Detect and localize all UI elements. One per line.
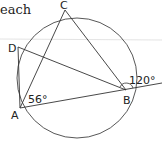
partial-text: each xyxy=(0,2,32,17)
label-B: B xyxy=(123,94,131,107)
segment-DA xyxy=(18,47,20,108)
diagram-canvas: each C D A B 56° 120° xyxy=(0,0,162,141)
label-A: A xyxy=(11,109,19,122)
angle-A-label: 56° xyxy=(28,93,48,106)
circle xyxy=(17,18,137,138)
faint-guide-line xyxy=(0,39,162,40)
geometry-diagram: each C D A B 56° 120° xyxy=(0,0,162,141)
angle-B-label: 120° xyxy=(129,74,156,87)
label-D: D xyxy=(8,42,16,55)
label-C: C xyxy=(60,0,68,12)
